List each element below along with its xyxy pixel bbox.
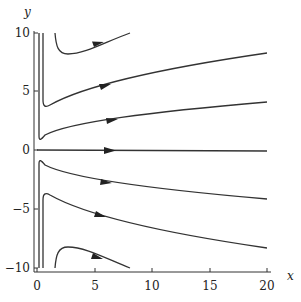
x-tick-label: 0 — [33, 279, 41, 293]
y-tick-label: 5 — [22, 84, 30, 98]
solution-curve-2 — [43, 33, 267, 106]
solution-curve-6 — [43, 194, 267, 268]
solution-curve-3 — [39, 33, 267, 139]
solution-curve-5 — [39, 161, 267, 268]
y-tick-label: −10 — [5, 261, 30, 275]
y-axis-label: y — [23, 5, 31, 19]
x-axis-label: x — [287, 269, 294, 283]
x-ticks — [37, 268, 267, 272]
direction-arrow-icon — [94, 211, 106, 217]
solution-curve-4 — [37, 150, 267, 151]
x-tick-label: 15 — [202, 279, 217, 293]
solution-curve-1 — [55, 33, 130, 54]
y-tick-label: 0 — [22, 143, 30, 157]
direction-arrow-icon — [104, 147, 116, 154]
phase-plot: 10 5 0 −5 −10 0 5 10 15 20 x y — [0, 0, 301, 302]
x-tick-label: 10 — [144, 279, 159, 293]
y-tick-label: −5 — [12, 202, 30, 216]
y-tick-label: 10 — [15, 26, 30, 40]
x-tick-label: 20 — [259, 279, 274, 293]
direction-arrow-icon — [106, 118, 118, 124]
x-tick-label: 5 — [91, 279, 99, 293]
direction-arrow-icon — [100, 179, 112, 185]
direction-arrow-icon — [99, 84, 111, 90]
